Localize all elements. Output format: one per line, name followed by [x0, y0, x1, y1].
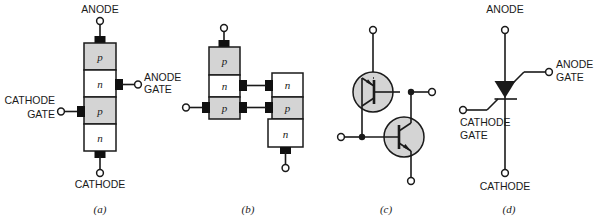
anode-gate-label-line1-d: ANODE [556, 58, 593, 70]
anode-terminal-a[interactable] [97, 18, 104, 25]
panel-b: p n p n p n (b) [183, 25, 303, 216]
cathode-terminal-d[interactable] [502, 170, 509, 177]
anode-label-a: ANODE [81, 3, 118, 15]
scr-triangle-d [495, 81, 516, 98]
interconnect-contact-left-n-b [239, 80, 247, 91]
layer-label-left-n-b: n [222, 80, 228, 92]
anode-gate-label-line2-d: GATE [556, 71, 584, 83]
cathode-gate-terminal-d[interactable] [460, 107, 467, 114]
cathode-label-a: CATHODE [75, 178, 126, 190]
caption-d: (d) [503, 203, 516, 216]
cathode-gate-terminal-c[interactable] [338, 134, 345, 141]
cathode-gate-contact-b [202, 102, 210, 113]
caption-c: (c) [380, 203, 393, 216]
layer-label-p2-a: p [96, 105, 103, 117]
anode-gate-label-line2-a: GATE [144, 83, 172, 95]
anode-gate-terminal-c[interactable] [429, 89, 436, 96]
scs-figure: p n p n ANODE ANODE GATE CATHODE GATE CA… [0, 0, 598, 222]
anode-gate-label-line1-a: ANODE [144, 71, 181, 83]
figure-canvas: p n p n ANODE ANODE GATE CATHODE GATE CA… [0, 0, 598, 222]
cathode-gate-terminal-b[interactable] [183, 104, 190, 111]
cathode-gate-label-line2-d: GATE [460, 129, 488, 141]
anode-terminal-d[interactable] [502, 27, 509, 34]
interconnect-contact-right-n-b [265, 80, 273, 91]
layer-label-right-n2-b: n [283, 128, 289, 140]
panel-a: p n p n ANODE ANODE GATE CATHODE GATE CA… [4, 3, 181, 216]
cathode-gate-label-line2-a: GATE [27, 108, 55, 120]
interconnect-contact-left-p-b [239, 102, 247, 113]
panel-c: (c) [338, 27, 436, 216]
cathode-terminal-b[interactable] [282, 165, 289, 172]
anode-terminal-c[interactable] [370, 27, 377, 34]
layer-label-p1-a: p [96, 51, 103, 63]
cathode-label-d: CATHODE [480, 180, 531, 192]
anode-contact-b [219, 40, 230, 47]
anode-gate-terminal-d[interactable] [546, 69, 553, 76]
anode-gate-diagonal-d [513, 72, 524, 83]
cathode-terminal-c[interactable] [408, 178, 415, 185]
cathode-gate-diagonal-d [487, 99, 498, 110]
caption-a: (a) [94, 203, 107, 216]
caption-b: (b) [242, 203, 255, 216]
cathode-terminal-a[interactable] [97, 170, 104, 177]
layer-label-right-p-b: p [284, 102, 291, 114]
anode-gate-contact-a [115, 79, 123, 90]
layer-label-n2-a: n [97, 132, 103, 144]
layer-label-n1-a: n [97, 78, 103, 90]
layer-label-right-n1-b: n [285, 79, 291, 91]
cathode-gate-terminal-a[interactable] [58, 108, 65, 115]
panel-d: ANODE ANODE GATE CATHODE GATE CATHODE (d… [460, 3, 594, 216]
anode-gate-terminal-a[interactable] [135, 81, 142, 88]
anode-terminal-b[interactable] [221, 25, 228, 32]
layer-label-left-p2-b: p [221, 102, 228, 114]
cathode-gate-label-line1-a: CATHODE [4, 94, 55, 106]
interconnect-contact-right-p-b [265, 102, 273, 113]
layer-label-left-p1-b: p [221, 55, 228, 67]
anode-contact-a [95, 36, 106, 43]
cathode-gate-label-line1-d: CATHODE [460, 116, 511, 128]
cathode-gate-contact-a [77, 106, 85, 117]
anode-label-d: ANODE [486, 3, 523, 15]
